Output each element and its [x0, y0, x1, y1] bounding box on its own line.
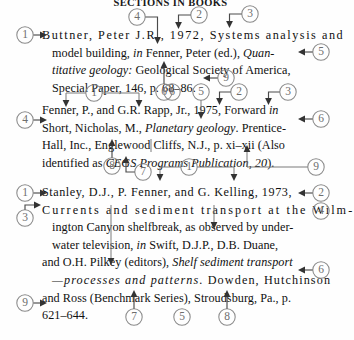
callout-label: 2 [318, 186, 324, 198]
ref3-line-3: ington Canyon shelfbreak, as observed by… [42, 219, 297, 237]
ref3-line-1: Stanley, D.J., P. Fenner, and G. Kelling… [42, 184, 297, 202]
ref1-line-4: Special Paper, 146, p. 68–86. [42, 80, 297, 98]
callout-6-ref2-publisher: 6 [298, 111, 329, 127]
callout-label: 2 [196, 8, 202, 20]
callout-label: 1 [22, 186, 28, 198]
callout-3-ref1-article-title: 3 [226, 6, 258, 28]
running-head: SECTIONS IN BOOKS [0, 0, 341, 8]
ref3-line-4: water television, in Swift, D.J.P., D.B.… [42, 237, 297, 255]
callout-label: 4 [22, 113, 28, 125]
ref2-line-2: Short, Nicholas, M., Planetary geology. … [42, 120, 297, 138]
callout-5-ref1-book-title: 5 [298, 44, 329, 60]
reference-entry-3: Stanley, D.J., P. Fenner, and G. Kelling… [42, 184, 297, 325]
callout-label: 6 [318, 112, 324, 124]
callout-label: 1 [22, 28, 28, 40]
callout-label: 3 [247, 7, 253, 19]
reference-entry-1: Buttner, Peter J.R., 1972, Systems analy… [42, 27, 297, 97]
ref3-line-2: Currents and sediment transport at the W… [42, 202, 297, 220]
ref2-line-3: Hall, Inc., Englewood Cliffs, N.J., p. x… [42, 137, 297, 155]
callout-label: 4 [134, 10, 140, 22]
ref3-line-7: and Ross (Benchmark Series), Stroudsburg… [42, 290, 297, 308]
callout-3-ref3-article-title: 3 [17, 202, 41, 227]
ref1-line-3: titative geology: Geological Society of … [42, 62, 297, 80]
ref3-line-6: —processes and patterns. Dowden, Hutchin… [42, 272, 297, 290]
callout-label: 5 [318, 45, 324, 57]
callout-label: 3 [22, 211, 28, 223]
callout-2-ref1-year: 2 [175, 7, 207, 29]
callout-label: 9 [313, 160, 319, 172]
ref2-line-4: identified as CEGS Programs Publication,… [42, 155, 297, 173]
ref1-line-2: model building, in Fenner, Peter (ed.), … [42, 45, 297, 63]
ref2-line-1: Fenner, P., and G.R. Rapp, Jr., 1975, Fo… [42, 102, 297, 120]
reference-entry-2: Fenner, P., and G.R. Rapp, Jr., 1975, Fo… [42, 102, 297, 172]
ref1-line-1: Buttner, Peter J.R., 1972, Systems analy… [42, 27, 297, 45]
callout-label: 9 [22, 296, 28, 308]
ref3-line-5: and O.H. Pilkey (editors), Shelf sedimen… [42, 254, 297, 272]
ref3-line-8: 621–644. [42, 307, 297, 325]
callout-2-ref3-year: 2 [298, 185, 329, 201]
